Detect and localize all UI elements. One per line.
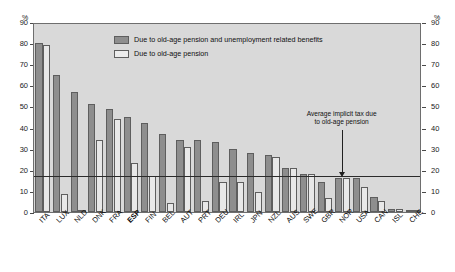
y-tick-label-left-40: 40	[12, 125, 28, 133]
y-tick-label-right-60: 60	[431, 82, 447, 90]
y-tick-label-right-50: 50	[431, 103, 447, 111]
implicit-tax-bar-chart: % % 9080706050403020100 9080706050403020…	[0, 0, 455, 272]
bar-usa-combined	[353, 178, 360, 212]
annotation-arrow-head	[339, 172, 345, 177]
y-tick-mark-left-0	[30, 213, 34, 214]
bar-nzl-pension	[272, 157, 279, 212]
average-reference-line	[34, 176, 420, 177]
y-tick-mark-right-20	[422, 171, 426, 172]
annotation-arrow-line	[342, 130, 343, 172]
y-tick-label-right-30: 30	[431, 146, 447, 154]
legend: Due to old-age pension and unemployment …	[114, 34, 323, 62]
y-tick-mark-right-10	[422, 192, 426, 193]
bar-lux-combined	[53, 75, 60, 212]
bar-nzl-combined	[265, 155, 272, 212]
bar-irl-pension	[237, 182, 244, 212]
bar-irl-combined	[229, 149, 236, 212]
bar-aut-pension	[184, 147, 191, 212]
y-tick-label-left-10: 10	[12, 188, 28, 196]
y-tick-label-right-80: 80	[431, 40, 447, 48]
bar-ita-pension	[43, 45, 50, 212]
bar-aus-pension	[290, 168, 297, 212]
y-tick-label-right-90: 90	[431, 19, 447, 27]
bar-nld-combined	[71, 92, 78, 212]
x-axis-label-isl: ISL	[391, 211, 405, 225]
bar-esp-combined	[124, 117, 131, 212]
y-tick-label-left-50: 50	[12, 103, 28, 111]
y-tick-label-left-90: 90	[12, 19, 28, 27]
legend-item-combined: Due to old-age pension and unemployment …	[114, 34, 323, 46]
bar-fra-combined	[106, 109, 113, 212]
y-tick-mark-right-60	[422, 86, 426, 87]
bar-che-combined	[406, 210, 413, 212]
bar-deu-combined	[212, 142, 219, 212]
bar-bel-combined	[159, 134, 166, 212]
y-tick-label-right-70: 70	[431, 61, 447, 69]
x-axis-label-ita: ITA	[38, 211, 51, 224]
legend-swatch-pension	[114, 50, 129, 58]
bar-isl-combined	[388, 209, 395, 212]
y-tick-mark-right-70	[422, 65, 426, 66]
y-tick-label-left-70: 70	[12, 61, 28, 69]
y-tick-label-left-60: 60	[12, 82, 28, 90]
y-tick-mark-right-90	[422, 23, 426, 24]
bar-can-combined	[370, 197, 377, 212]
bar-esp-pension	[131, 163, 138, 212]
bar-aus-combined	[282, 168, 289, 212]
bar-ita-combined	[35, 43, 42, 212]
y-tick-mark-right-50	[422, 107, 426, 108]
y-tick-mark-right-30	[422, 150, 426, 151]
bar-fra-pension	[114, 119, 121, 212]
legend-label-combined: Due to old-age pension and unemployment …	[134, 36, 323, 44]
y-tick-label-right-40: 40	[431, 125, 447, 133]
bar-fin-pension	[149, 176, 156, 212]
y-tick-label-right-10: 10	[431, 188, 447, 196]
bar-gbr-combined	[318, 182, 325, 212]
y-tick-label-left-0: 0	[12, 209, 28, 217]
legend-swatch-combined	[114, 36, 129, 44]
y-tick-label-left-20: 20	[12, 167, 28, 175]
y-tick-mark-right-80	[422, 44, 426, 45]
legend-item-pension: Due to old-age pension	[114, 48, 323, 60]
y-tick-mark-right-40	[422, 129, 426, 130]
legend-label-pension: Due to old-age pension	[134, 50, 208, 58]
bar-fin-combined	[141, 123, 148, 212]
bar-swe-combined	[300, 174, 307, 212]
y-tick-label-left-80: 80	[12, 40, 28, 48]
bar-jpn-combined	[247, 153, 254, 212]
bar-dnk-combined	[88, 104, 95, 212]
y-tick-label-right-20: 20	[431, 167, 447, 175]
bar-nor-combined	[335, 178, 342, 212]
y-tick-label-left-30: 30	[12, 146, 28, 154]
y-tick-label-right-0: 0	[431, 209, 447, 217]
annotation-label: Average implicit tax due to old-age pens…	[282, 110, 402, 127]
